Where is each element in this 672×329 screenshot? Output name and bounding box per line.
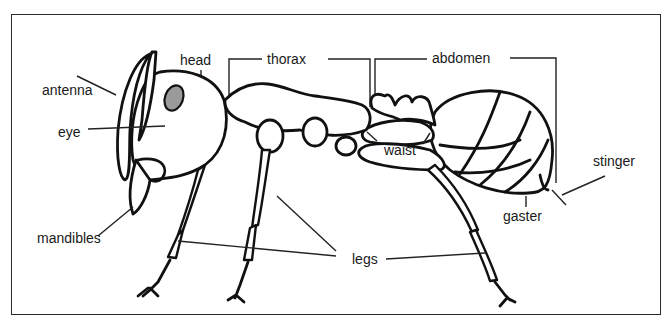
label-eye: eye [58,124,81,140]
legs-leaders [178,196,485,259]
thorax-shape [225,84,370,155]
label-head: head [180,52,211,68]
label-mandibles: mandibles [37,230,101,246]
label-legs: legs [352,251,378,267]
mandibles-leader [98,207,133,236]
ant-anatomy-diagram: head thorax abdomen antenna eye waist st… [0,0,672,329]
label-waist: waist [383,142,416,158]
label-antenna: antenna [42,82,93,98]
gaster-shape [430,91,552,193]
waist-shape [359,94,445,170]
middle-leg [228,150,270,302]
label-abdomen: abdomen [432,50,490,66]
stinger-leader [562,176,605,195]
label-thorax: thorax [267,51,306,67]
label-gaster: gaster [503,208,542,224]
label-stinger: stinger [593,153,635,169]
stinger-shape [552,190,566,205]
